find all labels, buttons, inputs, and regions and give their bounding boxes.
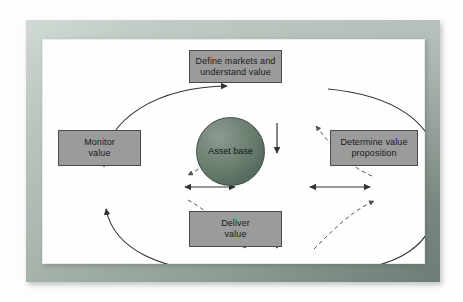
node-determine-value-proposition[interactable]: Determine value proposition bbox=[330, 130, 418, 166]
node-monitor-line2: value bbox=[82, 148, 117, 159]
diagram-canvas: Define markets and understand value Moni… bbox=[0, 0, 463, 302]
node-deliver-line2: value bbox=[219, 229, 252, 240]
node-asset-line2: base bbox=[233, 146, 253, 156]
node-asset-base[interactable]: Asset base bbox=[196, 117, 265, 186]
edge-deliver-to-determine-dashed bbox=[314, 201, 374, 249]
node-define-markets[interactable]: Define markets and understand value bbox=[189, 50, 282, 83]
node-deliver-value[interactable]: Deliver value bbox=[189, 211, 282, 247]
edge-determine-to-deliver bbox=[328, 209, 425, 264]
node-asset-line1: Asset bbox=[208, 146, 231, 156]
node-define-line1: Define markets and bbox=[194, 56, 278, 67]
node-deliver-line1: Deliver bbox=[219, 218, 252, 229]
node-determine-line1: Determine value bbox=[338, 137, 409, 148]
node-define-line2: understand value bbox=[194, 67, 278, 78]
node-determine-line2: proposition bbox=[338, 148, 409, 159]
node-monitor-line1: Monitor bbox=[82, 137, 117, 148]
node-monitor-value[interactable]: Monitor value bbox=[58, 130, 141, 166]
